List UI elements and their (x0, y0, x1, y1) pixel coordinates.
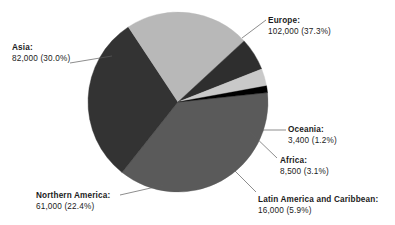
pie-label-name: Latin America and Caribbean: (258, 194, 378, 205)
pie-label-value: 61,000 (22.4%) (36, 201, 110, 212)
pie-label-value: 3,400 (1.2%) (288, 135, 337, 146)
pie-label-africa: Africa:8,500 (3.1%) (280, 155, 329, 177)
pie-label-asia: Asia:82,000 (30.0%) (12, 42, 70, 64)
pie-label-value: 102,000 (37.3%) (268, 26, 331, 37)
pie-chart: Europe:102,000 (37.3%)Asia:82,000 (30.0%… (0, 0, 395, 225)
leader-line-latin-america-and-caribbean (232, 168, 256, 192)
pie-label-value: 8,500 (3.1%) (280, 166, 329, 177)
pie-slices (88, 12, 268, 192)
pie-label-oceania: Oceania:3,400 (1.2%) (288, 124, 337, 146)
pie-label-northern-america: Northern America:61,000 (22.4%) (36, 190, 110, 212)
leader-line-northern-america (120, 185, 164, 195)
pie-label-europe: Europe:102,000 (37.3%) (268, 15, 331, 37)
pie-label-name: Oceania: (288, 124, 337, 135)
pie-label-name: Northern America: (36, 190, 110, 201)
pie-label-value: 16,000 (5.9%) (258, 205, 378, 216)
pie-label-name: Africa: (280, 155, 329, 166)
pie-label-name: Europe: (268, 15, 331, 26)
leader-line-europe (242, 20, 266, 38)
pie-label-value: 82,000 (30.0%) (12, 53, 70, 64)
pie-label-name: Asia: (12, 42, 70, 53)
pie-label-latin-america-and-caribbean: Latin America and Caribbean:16,000 (5.9%… (258, 194, 378, 216)
